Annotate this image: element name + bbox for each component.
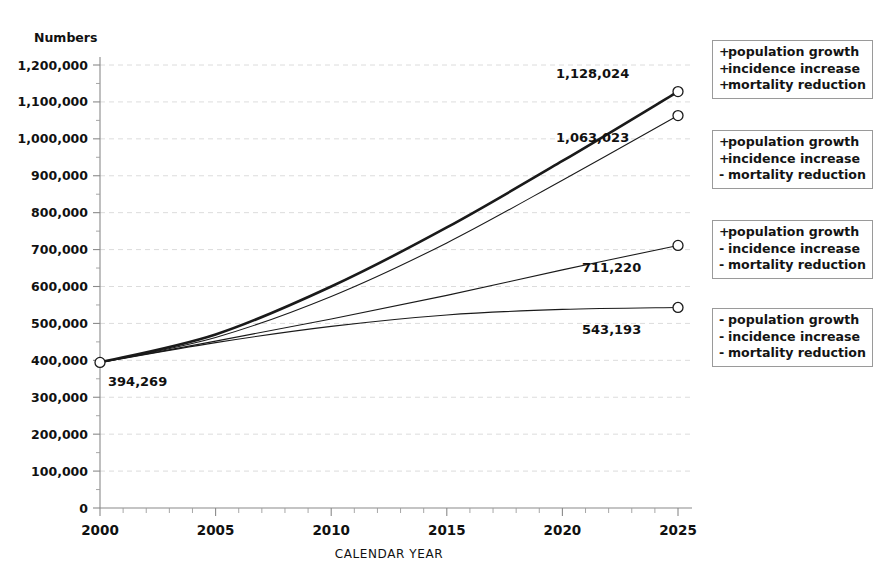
data-label-end-1: 1,063,023 [556, 130, 629, 145]
x-axis-title: CALENDAR YEAR [335, 547, 443, 561]
legend-sign-icon: - [719, 345, 728, 362]
legend-sign-icon: + [719, 151, 728, 168]
y-axis-tick-label: 100,000 [31, 464, 88, 479]
legend-row: -mortality reduction [719, 167, 866, 184]
legend-sign-icon: - [719, 312, 728, 329]
y-axis-tick-label: 1,200,000 [18, 58, 89, 73]
y-axis-tick-label: 200,000 [31, 427, 88, 442]
legend-sign-icon: + [719, 44, 728, 61]
chart-container: 0100,000200,000300,000400,000500,000600,… [0, 0, 889, 579]
legend-sign-icon: + [719, 77, 728, 94]
legend-row-label: incidence increase [728, 61, 860, 76]
legend-row: -mortality reduction [719, 345, 866, 362]
y-axis-title: Numbers [34, 30, 97, 45]
legend-sign-icon: - [719, 329, 728, 346]
legend-row-label: mortality reduction [728, 257, 866, 272]
legend-row: -incidence increase [719, 329, 866, 346]
legend-row-label: population growth [728, 134, 859, 149]
y-axis-tick-label: 900,000 [31, 168, 88, 183]
legend-sign-icon: - [719, 167, 728, 184]
x-axis-tick-label: 2005 [197, 522, 235, 538]
legend-sign-icon: + [719, 134, 728, 151]
data-point-marker-end-2 [673, 240, 683, 250]
legend-row-label: mortality reduction [728, 345, 866, 360]
legend-row: +population growth [719, 44, 866, 61]
legend-row-label: population growth [728, 312, 859, 327]
x-axis-tick-label: 2015 [428, 522, 466, 538]
legend-sign-icon: + [719, 61, 728, 78]
legend-box-2[interactable]: +population growth-incidence increase-mo… [712, 220, 873, 279]
data-label-end-2: 711,220 [582, 260, 641, 275]
y-axis-tick-label: 1,000,000 [18, 131, 89, 146]
data-label-start: 394,269 [108, 374, 167, 389]
legend-row-label: population growth [728, 224, 859, 239]
y-axis-tick-label: 300,000 [31, 390, 88, 405]
legend-row: +incidence increase [719, 151, 866, 168]
legend-row: +incidence increase [719, 61, 866, 78]
y-axis-tick-label: 800,000 [31, 205, 88, 220]
legend-row-label: incidence increase [728, 241, 860, 256]
y-axis-tick-label: 0 [79, 501, 88, 516]
data-point-marker-end-0 [673, 87, 683, 97]
y-axis-tick-label: 400,000 [31, 353, 88, 368]
legend-row: +mortality reduction [719, 77, 866, 94]
legend-row-label: incidence increase [728, 151, 860, 166]
data-point-marker-start [95, 357, 105, 367]
x-axis-tick-label: 2010 [312, 522, 350, 538]
legend-row: -incidence increase [719, 241, 866, 258]
y-axis-tick-label: 1,100,000 [18, 94, 89, 109]
data-point-marker-end-3 [673, 302, 683, 312]
x-axis-tick-label: 2025 [659, 522, 697, 538]
y-axis-tick-label: 600,000 [31, 279, 88, 294]
legend-sign-icon: - [719, 257, 728, 274]
legend-row-label: mortality reduction [728, 167, 866, 182]
legend-row: +population growth [719, 134, 866, 151]
x-axis-tick-label: 2020 [544, 522, 582, 538]
legend-row-label: incidence increase [728, 329, 860, 344]
legend-row: -population growth [719, 312, 866, 329]
y-axis-tick-label: 700,000 [31, 242, 88, 257]
legend-row: -mortality reduction [719, 257, 866, 274]
legend-sign-icon: - [719, 241, 728, 258]
legend-sign-icon: + [719, 224, 728, 241]
legend-box-1[interactable]: +population growth+incidence increase-mo… [712, 130, 873, 189]
legend-box-0[interactable]: +population growth+incidence increase+mo… [712, 40, 873, 99]
x-axis-tick-label: 2000 [81, 522, 119, 538]
legend-row-label: population growth [728, 44, 859, 59]
legend-box-3[interactable]: -population growth-incidence increase-mo… [712, 308, 873, 367]
data-label-end-0: 1,128,024 [556, 66, 629, 81]
data-point-marker-end-1 [673, 111, 683, 121]
y-axis-tick-label: 500,000 [31, 316, 88, 331]
legend-row-label: mortality reduction [728, 77, 866, 92]
data-label-end-3: 543,193 [582, 322, 641, 337]
legend-row: +population growth [719, 224, 866, 241]
